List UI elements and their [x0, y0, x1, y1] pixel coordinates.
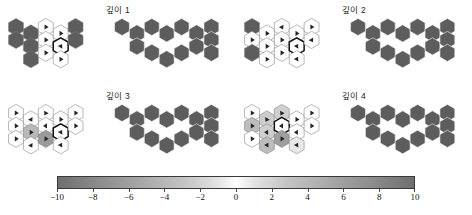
hex-cell: [245, 44, 260, 61]
panel-2-grids: [240, 16, 468, 88]
board-hex-cell: [115, 18, 130, 35]
colorbar-tick-label: 2: [270, 192, 275, 202]
board-hex-cell: [425, 38, 440, 55]
board-hex-cell: [189, 124, 204, 141]
board-hex-cell: [410, 104, 425, 121]
board-hex-cell: [440, 130, 455, 147]
board-hex-cell: [395, 111, 410, 128]
panel-depth-2: 깊이 2: [236, 0, 472, 90]
panel-title-2: 깊이 2: [236, 3, 472, 15]
board-hex-cell: [159, 111, 174, 128]
board-hex-cell: [174, 130, 189, 147]
board-hex-cell: [365, 124, 380, 141]
board-hex-cell: [204, 44, 219, 61]
colorbar-tick-label: −4: [160, 192, 170, 202]
panel-3-grids: [4, 102, 232, 174]
hex-cell: [9, 31, 24, 48]
panel-depth-4: 깊이 4: [236, 88, 472, 178]
board-hex-cell: [174, 18, 189, 35]
panel-1-grids: [4, 16, 232, 88]
board-hex-cell: [144, 104, 159, 121]
panel-title-3: 깊이 3: [0, 89, 236, 101]
panel-4-grids: [240, 102, 468, 174]
colorbar-tick-label: −2: [195, 192, 205, 202]
hex-cell: [23, 51, 38, 68]
board-hex-cell: [440, 44, 455, 61]
board-hex-cell: [365, 38, 380, 55]
board-hexgrid: [115, 18, 219, 67]
board-hex-cell: [159, 51, 174, 68]
colorbar-tick-label: −6: [124, 192, 134, 202]
board-hex-cell: [351, 18, 366, 35]
board-hexgrid: [351, 18, 455, 67]
colorbar-tick-label: −8: [88, 192, 98, 202]
board-hex-cell: [159, 25, 174, 42]
board-hex-cell: [395, 51, 410, 68]
colorbar-tick-label: 8: [377, 192, 382, 202]
board-hex-cell: [351, 104, 366, 121]
colorbar-tick-label: 10: [411, 192, 420, 202]
colorbar-tick-label: 4: [305, 192, 310, 202]
colorbar: −10−8−6−4−20246810: [57, 176, 415, 209]
board-hex-cell: [159, 137, 174, 154]
board-hex-cell: [174, 104, 189, 121]
board-hex-cell: [380, 130, 395, 147]
board-hex-cell: [410, 130, 425, 147]
panel-title-1: 깊이 1: [0, 3, 236, 15]
board-hex-cell: [380, 18, 395, 35]
board-hex-cell: [380, 44, 395, 61]
colorbar-tick-labels: −10−8−6−4−20246810: [57, 192, 415, 206]
board-hexgrid: [115, 104, 219, 153]
panel-title-4: 깊이 4: [236, 89, 472, 101]
colorbar-tick-label: −10: [50, 192, 64, 202]
board-hex-cell: [144, 18, 159, 35]
board-hex-cell: [174, 44, 189, 61]
hex-policy-figure: 깊이 1 깊이 2 깊이 3 깊이 4 −10−8−6−4−20246810: [0, 0, 472, 215]
board-hex-cell: [395, 137, 410, 154]
panel-depth-3: 깊이 3: [0, 88, 236, 178]
board-hex-cell: [410, 18, 425, 35]
board-hex-cell: [425, 124, 440, 141]
policy-value-hexgrid: [245, 104, 319, 153]
colorbar-tick-label: 6: [341, 192, 346, 202]
board-hex-cell: [395, 25, 410, 42]
board-hex-cell: [380, 104, 395, 121]
board-hex-cell: [204, 130, 219, 147]
colorbar-gradient: [57, 176, 415, 189]
hex-cell: [68, 31, 83, 48]
board-hex-cell: [115, 104, 130, 121]
board-hexgrid: [351, 104, 455, 153]
board-hex-cell: [189, 38, 204, 55]
panel-depth-1: 깊이 1: [0, 0, 236, 90]
board-hex-cell: [144, 44, 159, 61]
board-hex-cell: [129, 124, 144, 141]
policy-value-hexgrid: [245, 18, 319, 67]
policy-value-hexgrid: [9, 104, 83, 153]
policy-value-hexgrid: [9, 18, 83, 67]
board-hex-cell: [144, 130, 159, 147]
board-hex-cell: [129, 38, 144, 55]
board-hex-cell: [410, 44, 425, 61]
colorbar-tick-label: 0: [234, 192, 239, 202]
